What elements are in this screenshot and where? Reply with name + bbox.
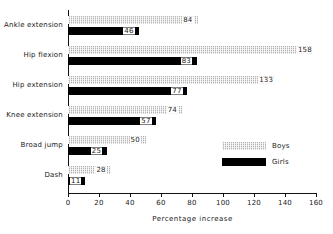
- bar-value-label: 133: [258, 76, 274, 83]
- bar-group: Hip extension13377: [68, 70, 316, 100]
- bar-boys: [68, 106, 183, 114]
- x-axis-label: Percentage increase: [68, 215, 317, 223]
- bar-boys: [68, 46, 313, 54]
- legend-swatch-girls: [222, 158, 266, 166]
- x-tick-label: 60: [156, 199, 165, 207]
- category-label: Knee extension: [6, 111, 63, 119]
- bar-value-label: 83: [181, 57, 192, 64]
- x-tick: [316, 193, 317, 197]
- bar-value-label: 74: [167, 106, 178, 113]
- category-label: Hip flexion: [24, 51, 63, 59]
- x-tick: [130, 193, 131, 197]
- bar-group: Hip flexion15883: [68, 40, 316, 70]
- bar-value-label: 84: [182, 16, 193, 23]
- bar-boys: [68, 76, 274, 84]
- bar-value-label: 158: [297, 46, 313, 53]
- x-tick: [68, 193, 69, 197]
- bar-chart: Ankle extension8446Hip flexion15883Hip e…: [0, 0, 333, 234]
- x-tick: [254, 193, 255, 197]
- x-tick: [192, 193, 193, 197]
- x-tick-label: 20: [94, 199, 103, 207]
- bar-group: Ankle extension8446: [68, 10, 316, 40]
- category-label: Broad jump: [21, 141, 63, 149]
- category-label: Ankle extension: [4, 21, 63, 29]
- x-tick-label: 80: [187, 199, 196, 207]
- x-tick-label: 0: [66, 199, 71, 207]
- x-tick-label: 120: [247, 199, 261, 207]
- bar-value-label: 11: [70, 177, 81, 184]
- x-tick: [223, 193, 224, 197]
- x-tick-label: 160: [309, 199, 323, 207]
- x-tick: [161, 193, 162, 197]
- x-tick: [285, 193, 286, 197]
- category-label: Dash: [44, 171, 63, 179]
- legend-swatch-boys: [222, 142, 266, 150]
- x-tick-label: 40: [125, 199, 134, 207]
- bar-boys: [68, 16, 198, 24]
- bar-value-label: 50: [130, 136, 141, 143]
- legend-label-boys: Boys: [272, 142, 290, 151]
- bar-value-label: 77: [171, 87, 182, 94]
- category-label: Hip extension: [12, 81, 63, 89]
- bar-girls: [68, 57, 197, 65]
- legend-label-girls: Girls: [272, 158, 289, 167]
- bar-group: Knee extension7457: [68, 100, 316, 130]
- bar-value-label: 46: [123, 27, 134, 34]
- bar-value-label: 57: [140, 117, 151, 124]
- x-tick-label: 100: [216, 199, 230, 207]
- x-tick-label: 140: [278, 199, 292, 207]
- x-tick: [99, 193, 100, 197]
- bar-value-label: 25: [91, 147, 102, 154]
- bar-value-label: 28: [95, 166, 106, 173]
- bar-girls: [68, 87, 187, 95]
